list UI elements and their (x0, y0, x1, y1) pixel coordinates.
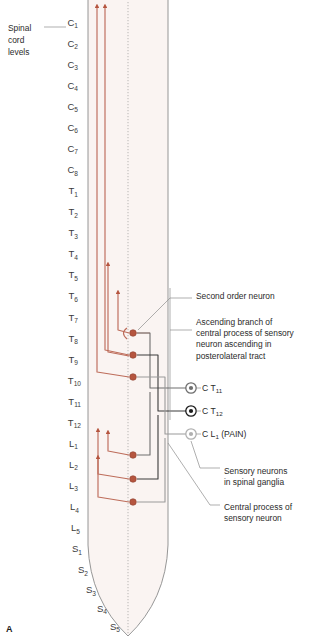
spinal-ganglia-group (186, 383, 196, 439)
level-label-t2: T2 (69, 206, 79, 218)
annotation-central-process-line-1: Central process of (224, 502, 293, 512)
annotation-ascending-branch-line-3: neuron ascending in (196, 339, 272, 349)
level-label-l3: L3 (69, 480, 78, 492)
level-label-c4: C4 (67, 80, 78, 92)
annotation-second-order-neuron: Second order neuron (196, 291, 275, 301)
level-label-t10: T10 (68, 375, 81, 387)
level-label-t3: T3 (69, 227, 79, 239)
annotation-central-process-line-2: sensory neuron (224, 513, 282, 523)
annotation-second-order-neuron-line-1: Second order neuron (196, 291, 275, 301)
ganglion-t11-label: C T11 (202, 383, 223, 394)
spinal-cord-levels-caption: Spinal cord levels (8, 23, 66, 57)
annotation-ascending-branch: Ascending branch ofcentral process of se… (196, 317, 295, 361)
synapse-l4 (130, 499, 137, 506)
level-label-t6: T6 (69, 290, 79, 302)
annotation-ascending-branch-line-2: central process of sensory (196, 328, 295, 338)
spinal-cord-diagram: C1C2C3C4C5C6C7C8T1T2T3T4T5T6T7T8T9T10T11… (0, 0, 309, 641)
ganglion-t12 (186, 406, 196, 416)
level-label-c5: C5 (67, 101, 78, 113)
level-label-c1: C1 (67, 17, 78, 29)
level-label-c3: C3 (67, 59, 78, 71)
synapse-t10-dot (130, 374, 137, 381)
level-label-t4: T4 (69, 248, 79, 260)
level-label-t8: T8 (69, 333, 79, 345)
level-label-s3: S3 (86, 584, 96, 596)
level-label-c7: C7 (67, 143, 78, 155)
spinal-cord-body (88, 0, 168, 636)
ganglion-l1-nucleus (189, 432, 193, 436)
annotation-sensory-neurons-ganglia-line-2: in spinal ganglia (224, 477, 284, 487)
ganglion-t12-label: C T12 (202, 406, 223, 417)
level-label-l2: L2 (69, 459, 78, 471)
level-label-s2: S2 (78, 564, 88, 576)
annotation-ascending-branch-line-4: posterolateral tract (196, 351, 266, 361)
level-label-l4: L4 (70, 501, 79, 513)
synapse-t8 (130, 330, 137, 337)
ganglion-l1-label: C L1 (PAIN) (202, 429, 246, 440)
ganglion-t11-nucleus (189, 386, 193, 390)
ganglion-t11 (186, 383, 196, 393)
synapse-l2 (130, 452, 137, 459)
synapse-t8-dot (130, 330, 137, 337)
level-label-t9: T9 (69, 354, 79, 366)
level-label-t5: T5 (69, 269, 79, 281)
annotation-ascending-branch-line-1: Ascending branch of (196, 317, 273, 327)
level-label-t12: T12 (68, 417, 81, 429)
leader-central-process (168, 443, 220, 505)
level-label-s1: S1 (72, 543, 82, 555)
level-label-c6: C6 (67, 122, 78, 134)
annotation-central-process: Central process ofsensory neuron (224, 502, 293, 523)
level-label-t1: T1 (69, 185, 79, 197)
synapse-l2-dot (130, 452, 137, 459)
annotation-sensory-neurons-ganglia-line-1: Sensory neurons (224, 466, 287, 476)
ganglion-l1 (186, 429, 196, 439)
synapse-l3 (130, 476, 137, 483)
synapse-t10 (130, 374, 137, 381)
level-label-c2: C2 (67, 38, 78, 50)
ganglion-labels-group: C T11C T12C L1 (PAIN) (196, 383, 246, 440)
level-label-l5: L5 (71, 522, 80, 534)
synapse-t9 (130, 352, 137, 359)
level-label-c8: C8 (67, 164, 78, 176)
level-label-t11: T11 (68, 396, 81, 408)
caption-line-2: cord (8, 35, 25, 45)
panel-letter: A (6, 624, 13, 634)
ganglion-t12-nucleus (189, 409, 193, 413)
synapse-l3-dot (130, 476, 137, 483)
level-label-t7: T7 (69, 312, 79, 324)
synapse-t9-dot (130, 352, 137, 359)
caption-line-1: Spinal (8, 23, 31, 33)
annotation-sensory-neurons-ganglia: Sensory neuronsin spinal ganglia (224, 466, 287, 487)
leader-sensory-neurons (191, 441, 220, 468)
level-label-l1: L1 (69, 438, 78, 450)
caption-line-3: levels (8, 47, 29, 57)
synapse-l4-dot (130, 499, 137, 506)
